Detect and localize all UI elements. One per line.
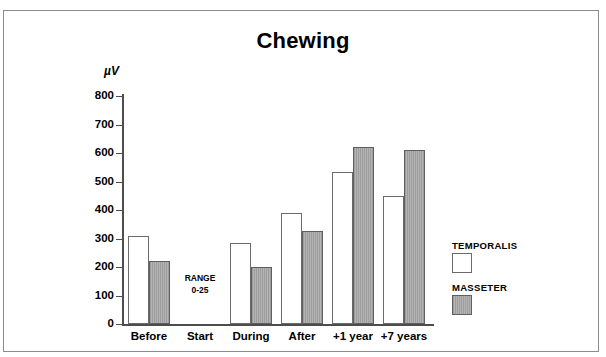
bar-group: During	[230, 96, 272, 324]
bar-temporalis-during	[230, 243, 251, 324]
bar-group: After	[281, 96, 323, 324]
y-axis-tick	[116, 267, 122, 268]
legend-swatch-temporalis	[452, 253, 472, 273]
y-axis-tick	[116, 125, 122, 126]
y-axis-unit-label: µV	[104, 64, 119, 78]
y-axis-line	[122, 94, 124, 324]
y-axis-tick	[116, 96, 122, 97]
x-axis-category-label: +7 years	[372, 330, 436, 342]
y-axis-tick-label: 400	[80, 203, 114, 215]
y-axis-tick	[116, 296, 122, 297]
legend-item-masseter: MASSETER	[452, 282, 572, 315]
range-annotation-line-2: 0-25	[175, 285, 225, 296]
legend-item-temporalis: TEMPORALIS	[452, 240, 572, 273]
bar-masseter-before	[149, 261, 170, 324]
page-title: Chewing	[0, 28, 606, 54]
x-axis-line	[122, 324, 434, 326]
y-axis-tick	[116, 324, 122, 325]
chart-figure: Chewing µV 8007006005004003002001000 Bef…	[0, 0, 606, 357]
y-axis-tick-label: 800	[80, 89, 114, 101]
bar-group: Before	[128, 96, 170, 324]
range-annotation-line-1: RANGE	[175, 273, 225, 284]
legend-item-label: MASSETER	[452, 282, 572, 293]
y-axis-tick	[116, 210, 122, 211]
legend-swatch-masseter	[452, 295, 472, 315]
range-annotation: RANGE0-25	[175, 273, 225, 296]
bar-temporalis-1-year	[332, 172, 353, 324]
bar-masseter-1-year	[353, 147, 374, 324]
y-axis-tick	[116, 153, 122, 154]
bar-temporalis-before	[128, 236, 149, 324]
y-axis-tick	[116, 239, 122, 240]
plot-area: BeforeRANGE0-25StartDuringAfter+1 year+7…	[122, 96, 434, 324]
legend-item-label: TEMPORALIS	[452, 240, 572, 251]
bar-temporalis-7-years	[383, 196, 404, 324]
y-axis-tick-label: 700	[80, 118, 114, 130]
y-axis-tick-label: 0	[80, 317, 114, 329]
bar-masseter-after	[302, 231, 323, 324]
y-axis-tick	[116, 182, 122, 183]
y-axis-tick-label: 500	[80, 175, 114, 187]
bar-masseter-during	[251, 267, 272, 324]
bar-group: +1 year	[332, 96, 374, 324]
bar-temporalis-after	[281, 213, 302, 324]
y-axis-tick-label: 200	[80, 260, 114, 272]
y-axis-tick-label: 300	[80, 232, 114, 244]
chart-legend: TEMPORALIS MASSETER	[452, 240, 572, 324]
y-axis-tick-label: 600	[80, 146, 114, 158]
bar-group: +7 years	[383, 96, 425, 324]
bar-masseter-7-years	[404, 150, 425, 324]
y-axis-tick-label: 100	[80, 289, 114, 301]
bar-group: RANGE0-25Start	[179, 96, 221, 324]
y-axis-tick-labels: 8007006005004003002001000	[74, 96, 114, 328]
